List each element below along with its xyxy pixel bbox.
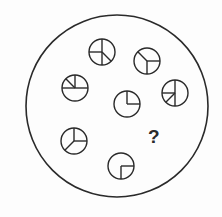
question-mark: ?: [148, 127, 160, 146]
radius-line-se: [102, 52, 111, 61]
small-circle-e: [114, 91, 140, 117]
radius-line-sw: [65, 141, 74, 150]
small-circle-c: [62, 75, 88, 101]
small-circle-f: [61, 128, 87, 154]
small-circles-group: [61, 39, 188, 179]
outer-circle: [26, 15, 208, 197]
small-circle-a: [89, 39, 115, 65]
puzzle-diagram: [0, 0, 222, 217]
radius-line-nw: [66, 79, 75, 88]
radius-line-sw: [166, 93, 175, 102]
small-circle-d: [162, 80, 188, 106]
small-circle-b: [134, 48, 160, 74]
radius-line-nw: [138, 52, 147, 61]
puzzle-figure: ?: [0, 0, 222, 217]
small-circle-g: [108, 153, 134, 179]
